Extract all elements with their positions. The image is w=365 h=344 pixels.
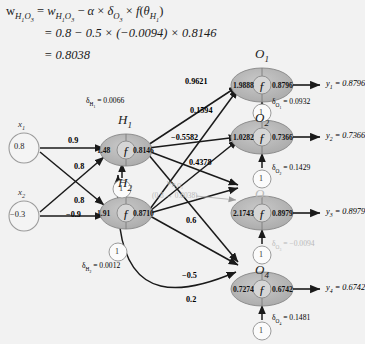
delta-o4: δO4 = 0.1481 — [272, 313, 310, 326]
output-y2: y2 = 0.7366 — [326, 131, 365, 142]
input-label-x2: x2 — [18, 187, 25, 199]
weight-x1-h2: 0.8 — [74, 162, 84, 171]
bias-label-o4: 1 — [259, 326, 263, 335]
weight-h1-o4: −0.5 — [182, 271, 197, 280]
weight-h2-o3: 0.6 — [186, 216, 196, 225]
hidden-name-h2: H2 — [118, 175, 132, 193]
svg-text:ƒ: ƒ — [259, 206, 266, 221]
input-value-x2: −0.3 — [10, 210, 25, 219]
output-net-o4: 0.7274 — [233, 285, 254, 294]
input-label-x1: x1 — [18, 119, 25, 131]
output-out-o1: 0.8796 — [272, 81, 293, 90]
output-net-o3: 2.1743 — [233, 209, 254, 218]
output-y3: y3 = 0.8979 — [326, 207, 365, 218]
weight-h1-o1: 0.9621 — [185, 77, 208, 86]
output-y4: y4 = 0.6742 — [326, 283, 365, 294]
delta-o2: δO2 = 0.1429 — [272, 163, 310, 176]
output-out-o4: 0.6742 — [272, 285, 293, 294]
delta-h2: δH2 = 0.0012 — [82, 261, 120, 274]
bias-label-h2: 1 — [115, 247, 119, 256]
svg-text:ƒ: ƒ — [123, 143, 130, 158]
output-name-o4: O4 — [255, 262, 269, 280]
output-y1: y1 = 0.8796 — [326, 79, 365, 90]
hidden-net-h2: 1.91 — [97, 209, 110, 218]
weight-x1-h1: 0.9 — [68, 136, 78, 145]
output-name-o3: O3 — [255, 186, 269, 204]
delta-o1: δO1 = 0.0932 — [272, 97, 310, 110]
weight-x2-h2: −0.9 — [66, 210, 81, 219]
svg-text:ƒ: ƒ — [259, 78, 266, 93]
bias-label-o2: 1 — [259, 174, 263, 183]
hidden-name-h1: H1 — [118, 112, 132, 130]
delta-h1: δH1 = 0.0066 — [86, 96, 124, 109]
output-name-o2: O2 — [255, 110, 269, 128]
hidden-net-h1: 1.48 — [97, 146, 110, 155]
svg-text:ƒ: ƒ — [259, 130, 266, 145]
weight-h2-o4: 0.2 — [186, 295, 196, 304]
annotation-weight-update: wH1O3 (0.8 → 0.8038) — [152, 178, 198, 200]
weight-h2-o2: 0.4378 — [189, 158, 212, 167]
bias-label-o3: 1 — [259, 250, 263, 259]
hidden-out-h2: 0.8710 — [133, 209, 154, 218]
output-net-o1: 1.9888 — [233, 81, 254, 90]
delta-o3: δO3 = −0.0094 — [272, 239, 315, 252]
output-out-o2: 0.7366 — [272, 133, 293, 142]
svg-text:ƒ: ƒ — [259, 282, 266, 297]
weight-h1-o3: −0.5582 — [171, 133, 198, 142]
input-value-x1: 0.8 — [14, 142, 24, 151]
output-net-o2: 1.0282 — [233, 133, 254, 142]
weight-h1-o2: 0.1594 — [190, 106, 213, 115]
svg-text:ƒ: ƒ — [123, 206, 130, 221]
output-name-o1: O1 — [255, 46, 269, 64]
hidden-out-h1: 0.8146 — [133, 146, 154, 155]
annotation-weight-change: (0.8 → 0.8038) — [152, 191, 198, 200]
output-out-o3: 0.8979 — [272, 209, 293, 218]
weight-x2-h1: 0.8 — [74, 196, 84, 205]
